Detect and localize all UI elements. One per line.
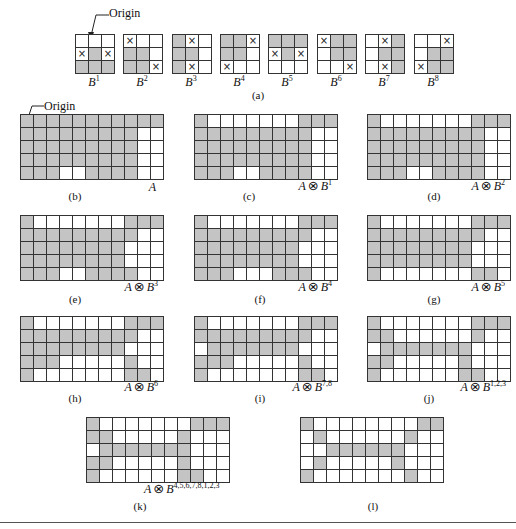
grid-cell (21, 141, 33, 153)
grid-cell (286, 216, 298, 228)
grid-cell (151, 216, 163, 228)
kernel-cell (428, 35, 440, 47)
grid-cell (152, 444, 164, 456)
grid-cell (459, 128, 471, 140)
grid-cell (221, 343, 233, 355)
kernel-cell (282, 48, 294, 60)
grid-cell (299, 317, 311, 329)
grid-cell (21, 115, 33, 127)
grid-cell (379, 470, 391, 482)
grid-cell (139, 444, 151, 456)
grid-cell (286, 317, 298, 329)
grid-cell (273, 128, 285, 140)
grid-cell (195, 369, 207, 381)
panel-caption-b: (b) (55, 190, 95, 202)
grid-cell (260, 356, 272, 368)
grid-cell (60, 255, 72, 267)
kernel-cell (199, 61, 211, 73)
kernel-cell (186, 48, 198, 60)
grid-cell (112, 343, 124, 355)
grid-cell (221, 330, 233, 342)
grid-cell (325, 343, 337, 355)
dont-care-cross-icon: × (247, 35, 259, 47)
grid-cell (299, 154, 311, 166)
grid-cell (113, 418, 125, 430)
grid-cell (485, 115, 497, 127)
grid-cell (247, 229, 259, 241)
grid-cell (459, 255, 471, 267)
grid-cell (433, 356, 445, 368)
grid-cell (100, 418, 112, 430)
grid-cell (87, 444, 99, 456)
grid-cell (151, 330, 163, 342)
grid-cell (100, 431, 112, 443)
grid-cell (368, 317, 380, 329)
grid-cell (47, 369, 59, 381)
grid-cell (273, 154, 285, 166)
grid-cell (368, 356, 380, 368)
grid-cell (34, 268, 46, 280)
grid-cell (34, 317, 46, 329)
grid-cell (325, 229, 337, 241)
grid-cell (368, 229, 380, 241)
kernel-cell (441, 61, 453, 73)
grid-cell (234, 216, 246, 228)
panel-caption-d: (d) (414, 190, 454, 202)
grid-cell (420, 356, 432, 368)
grid-cell (381, 255, 393, 267)
grid-label-b: A (100, 180, 156, 195)
grid-cell (221, 216, 233, 228)
grid-cell (286, 141, 298, 153)
grid-cell (299, 330, 311, 342)
kernel-cell (137, 35, 149, 47)
grid-cell (301, 418, 313, 430)
grid-cell (60, 167, 72, 179)
grid-cell (195, 128, 207, 140)
grid-cell (498, 128, 510, 140)
grid-cell (204, 431, 216, 443)
dont-care-cross-icon: × (379, 61, 391, 73)
origin-label-grid: Origin (44, 99, 75, 114)
grid-cell (125, 330, 137, 342)
grid-cell (195, 216, 207, 228)
grid-cell (191, 418, 203, 430)
grid-g-erosion-b5 (367, 215, 511, 281)
grid-cell (217, 444, 229, 456)
grid-cell (260, 317, 272, 329)
grid-cell (459, 115, 471, 127)
grid-cell (433, 255, 445, 267)
kernel-cell (269, 35, 281, 47)
grid-cell (178, 444, 190, 456)
grid-cell (394, 167, 406, 179)
grid-cell (433, 343, 445, 355)
kernel-cell (415, 48, 427, 60)
panel-caption-g: (g) (414, 293, 454, 305)
grid-cell (112, 330, 124, 342)
grid-cell (87, 470, 99, 482)
panel-caption-a: (a) (238, 89, 278, 101)
grid-cell (394, 268, 406, 280)
grid-cell (234, 343, 246, 355)
grid-cell (34, 229, 46, 241)
grid-cell (221, 167, 233, 179)
grid-cell (195, 268, 207, 280)
grid-cell (472, 216, 484, 228)
grid-cell (60, 154, 72, 166)
grid-cell (195, 154, 207, 166)
grid-cell (234, 115, 246, 127)
grid-cell (485, 356, 497, 368)
grid-cell (138, 154, 150, 166)
grid-cell (420, 330, 432, 342)
grid-cell (221, 115, 233, 127)
grid-cell (498, 216, 510, 228)
grid-cell (381, 369, 393, 381)
grid-cell (368, 115, 380, 127)
grid-cell (47, 128, 59, 140)
grid-cell (273, 356, 285, 368)
grid-cell (273, 242, 285, 254)
grid-cell (433, 317, 445, 329)
grid-cell (217, 431, 229, 443)
grid-cell (47, 356, 59, 368)
grid-cell (151, 242, 163, 254)
grid-cell (47, 317, 59, 329)
